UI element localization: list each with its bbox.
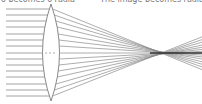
lens-diagram: o becomes o radia The image becomes radi… <box>0 0 202 104</box>
refracted-ray <box>54 15 202 67</box>
refracted-rays <box>53 9 202 96</box>
ray-diagram-svg <box>0 0 202 104</box>
convex-lens-icon <box>43 4 60 101</box>
refracted-ray <box>57 27 202 62</box>
refracted-ray <box>53 9 202 70</box>
